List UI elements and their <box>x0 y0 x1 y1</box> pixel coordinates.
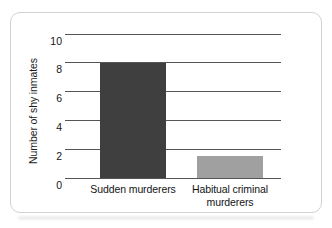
y-tick-label: 10 <box>49 36 62 47</box>
y-tick-label: 8 <box>49 64 62 75</box>
x-axis-category-label: Habitual criminalmurderers <box>170 183 290 208</box>
bar <box>197 156 263 178</box>
chart-page: Number of shy inmates 0246810 Sudden mur… <box>0 0 332 228</box>
y-tick-label: 6 <box>49 93 62 104</box>
y-tick-label: 4 <box>49 122 62 133</box>
x-axis-label-line: Habitual criminal <box>192 183 268 195</box>
gridline <box>65 34 281 35</box>
y-axis-title: Number of shy inmates <box>27 46 39 176</box>
y-tick-label: 0 <box>49 180 62 191</box>
bar-chart: Number of shy inmates 0246810 Sudden mur… <box>11 13 323 214</box>
gridline <box>65 149 281 150</box>
y-tick-label: 2 <box>49 151 62 162</box>
bar <box>100 63 166 178</box>
x-axis-label-line: murderers <box>170 196 290 209</box>
x-axis-label-line: Sudden murderers <box>90 183 175 195</box>
gridline <box>65 120 281 121</box>
figure-card: Number of shy inmates 0246810 Sudden mur… <box>10 12 322 213</box>
card-shadow <box>18 216 314 220</box>
gridline <box>65 91 281 92</box>
gridline <box>65 62 281 63</box>
plot-area: 0246810 <box>65 34 281 178</box>
